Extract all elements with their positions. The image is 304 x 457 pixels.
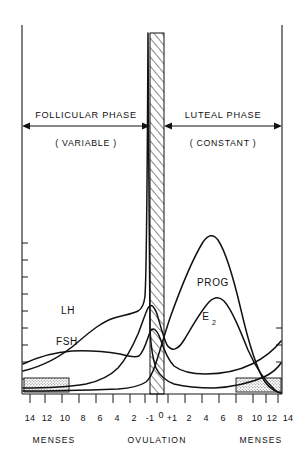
tick-label-r10: 10 — [252, 413, 262, 423]
menses-caption-left: MENSES — [33, 435, 76, 445]
follicular-phase-sublabel: ( VARIABLE ) — [55, 138, 117, 148]
tick-label-r2: 2 — [186, 413, 191, 423]
tick-label-l8: 8 — [80, 413, 85, 423]
right-axis-minor-ticks — [276, 328, 282, 379]
tick-label-l4: 4 — [114, 413, 119, 423]
x-axis-labels-left: 14 12 10 8 6 4 2 -1 — [25, 413, 154, 423]
tick-label-zero: 0 — [158, 410, 163, 420]
lh-label: LH — [61, 305, 75, 316]
x-axis-labels-center: 0 +1 — [158, 410, 177, 423]
tick-label-l12: 12 — [42, 413, 52, 423]
tick-label-minus1: -1 — [146, 413, 154, 423]
fsh-label: FSH — [56, 336, 78, 347]
follicular-phase-label: FOLLICULAR PHASE — [35, 110, 137, 120]
x-axis-labels-right: 2 4 6 8 10 12 14 — [186, 413, 293, 423]
tick-label-r8: 8 — [237, 413, 242, 423]
tick-label-l14: 14 — [25, 413, 35, 423]
tick-label-l2: 2 — [131, 413, 136, 423]
prog-label: PROG — [197, 277, 229, 288]
x-axis-ticks — [30, 394, 278, 403]
tick-label-r14: 14 — [283, 413, 293, 423]
ovulation-caption: OVULATION — [128, 435, 187, 445]
tick-label-l10: 10 — [60, 413, 70, 423]
tick-label-r4: 4 — [203, 413, 208, 423]
e2-label-base: E — [202, 311, 209, 322]
tick-label-plus1: +1 — [167, 413, 178, 423]
tick-label-r12: 12 — [267, 413, 277, 423]
left-axis-minor-ticks — [22, 243, 28, 379]
luteal-phase-label: LUTEAL PHASE — [185, 110, 261, 120]
e2-label-subscript: 2 — [212, 319, 216, 326]
ovulation-band — [150, 33, 164, 394]
menses-caption-right: MENSES — [240, 435, 283, 445]
tick-label-r6: 6 — [220, 413, 225, 423]
luteal-phase-sublabel: ( CONSTANT ) — [190, 138, 257, 148]
hormone-cycle-figure: FOLLICULAR PHASE ( VARIABLE ) LUTEAL PHA… — [0, 0, 304, 457]
follicular-phase-arrow — [22, 123, 150, 130]
cycle-chart: FOLLICULAR PHASE ( VARIABLE ) LUTEAL PHA… — [0, 0, 304, 457]
e2-label: E 2 — [202, 311, 216, 326]
luteal-phase-arrow — [164, 123, 282, 130]
tick-label-l6: 6 — [97, 413, 102, 423]
